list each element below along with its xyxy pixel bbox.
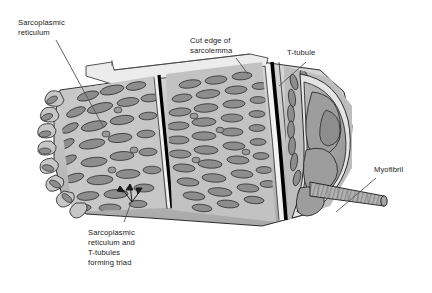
label-cut-edge-of-sarcolemma: Cut edge of sarcolemma [190,36,232,56]
label-t-tubule: T-tubule [287,48,315,58]
label-triad: Sarcoplasmic reticulum and T-tubules for… [88,228,135,268]
muscle-fiber-body [38,54,388,235]
label-sarcoplasmic-reticulum: Sarcoplasmic reticulum [18,18,65,38]
figure-canvas: Sarcoplasmic reticulum Cut edge of sarco… [0,0,432,293]
label-myofibril: Myofibril [374,165,403,175]
